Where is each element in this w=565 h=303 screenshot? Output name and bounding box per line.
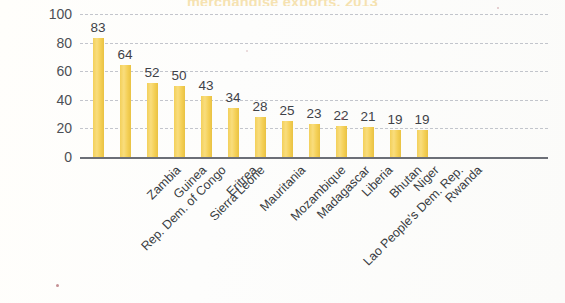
bar-value-label: 83: [81, 20, 115, 35]
chart-title: merchandise exports, 2013: [0, 0, 565, 6]
y-axis-tick-label: 100: [32, 6, 72, 22]
y-axis-tick-label: 40: [32, 92, 72, 108]
bar[interactable]: [255, 117, 266, 157]
bar[interactable]: [201, 96, 212, 157]
y-axis-tick-label: 60: [32, 63, 72, 79]
axis-baseline: [80, 157, 548, 159]
bar[interactable]: [390, 130, 401, 157]
bar[interactable]: [120, 65, 131, 157]
bar[interactable]: [174, 86, 185, 158]
plot-area: 83645250433428252322211919: [80, 14, 548, 157]
bar[interactable]: [363, 127, 374, 157]
bar[interactable]: [417, 130, 428, 157]
bar[interactable]: [228, 108, 239, 157]
bar[interactable]: [93, 38, 104, 157]
bar[interactable]: [336, 126, 347, 157]
gridline: [80, 14, 548, 15]
scan-speck: [341, 117, 344, 120]
gridline: [80, 43, 548, 44]
bar-value-label: 64: [108, 47, 142, 62]
scan-speck: [497, 7, 499, 9]
bar-value-label: 19: [405, 112, 439, 127]
y-axis-tick-label: 80: [32, 35, 72, 51]
bar[interactable]: [309, 124, 320, 157]
bar[interactable]: [147, 83, 158, 157]
scan-speck: [246, 50, 248, 52]
bar[interactable]: [282, 121, 293, 157]
y-axis-tick-label: 20: [32, 120, 72, 136]
y-axis-tick-label: 0: [32, 149, 72, 165]
scan-speck: [56, 284, 59, 287]
